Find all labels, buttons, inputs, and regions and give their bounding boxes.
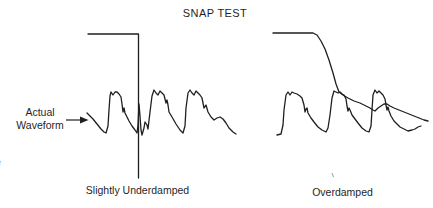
waveform-diagram [0,0,433,208]
page-edge-text-fragment: e [0,156,1,169]
right-actual-waveform [277,90,421,135]
figure-canvas: SNAP TEST Actual Waveform Slightly Under… [0,0,433,208]
stray-tick-mark [332,173,334,177]
actual-waveform-label-line2: Waveform [12,119,68,132]
right-step-response [273,33,428,121]
caption-slightly-underdamped: Slightly Underdamped [55,184,220,197]
left-actual-waveform [87,90,236,135]
figure-title: SNAP TEST [150,7,280,20]
actual-waveform-label-line1: Actual [12,106,68,119]
left-step-input [88,34,139,178]
caption-overdamped: Overdamped [285,186,400,199]
actual-waveform-label: Actual Waveform [12,106,68,132]
annotation-arrow-head-icon [80,117,89,124]
